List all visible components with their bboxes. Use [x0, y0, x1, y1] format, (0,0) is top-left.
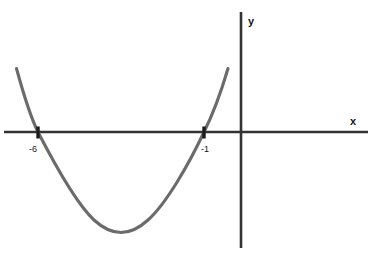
- coordinate-plane-svg: -6 -1 x y: [0, 0, 373, 261]
- parabola-graph-figure: -6 -1 x y: [0, 0, 373, 261]
- x-axis-label: x: [350, 115, 357, 127]
- parabola-curve: [17, 69, 229, 233]
- tick-label-minus-one: -1: [201, 144, 209, 154]
- tick-label-minus-six: -6: [29, 144, 37, 154]
- y-axis-label: y: [248, 15, 255, 27]
